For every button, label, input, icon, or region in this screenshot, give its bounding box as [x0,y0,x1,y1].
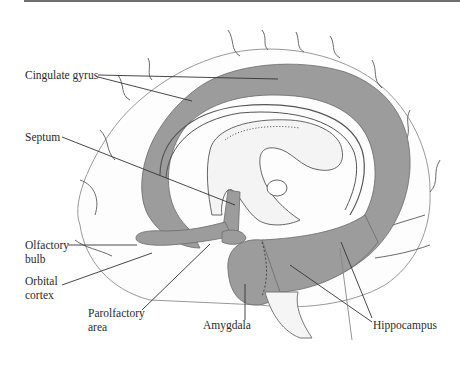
label-amygdala: Amygdala [203,318,251,332]
label-olfactory-bulb-line2: bulb [25,252,69,266]
label-orbital-cortex: Orbital cortex [25,274,58,302]
label-olfactory-bulb-line1: Olfactory [25,238,69,252]
label-orbital-cortex-line2: cortex [25,288,58,302]
label-parolfactory-area: Parolfactory area [88,306,145,334]
label-parolfactory-area-line2: area [88,320,145,334]
label-parolfactory-area-line1: Parolfactory [88,306,145,320]
label-olfactory-bulb: Olfactory bulb [25,238,69,266]
label-hippocampus: Hippocampus [373,318,437,332]
brain-diagram [0,0,460,365]
label-orbital-cortex-line1: Orbital [25,274,58,288]
label-cingulate-gyrus: Cingulate gyrus [25,68,98,82]
label-septum: Septum [25,130,60,144]
interthalamic-adhesion [267,180,287,196]
